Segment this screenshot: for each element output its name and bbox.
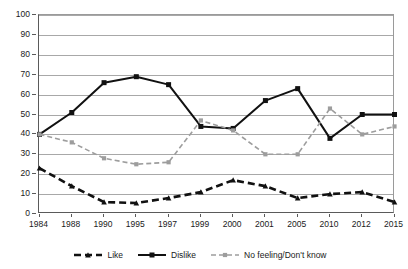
data-point [102, 156, 106, 160]
data-point [360, 132, 364, 136]
x-axis-tick-mark [297, 214, 298, 217]
y-axis-tick-mark [32, 173, 36, 174]
legend-swatch-square-icon [210, 250, 240, 260]
legend-swatch-square-icon [137, 250, 167, 260]
x-axis-tick-mark [103, 214, 104, 217]
series-line [40, 168, 395, 203]
data-point [328, 106, 332, 110]
y-axis-tick-mark [32, 14, 36, 15]
x-axis-tick-mark [71, 214, 72, 217]
data-point [231, 128, 235, 132]
y-axis-tick-mark [32, 133, 36, 134]
x-axis-tick-mark [394, 214, 395, 217]
x-axis-tick-mark [135, 214, 136, 217]
y-axis-tick-mark [32, 74, 36, 75]
chart-legend: LikeDislikeNo feeling/Don't know [0, 245, 400, 265]
series-line [40, 77, 395, 139]
x-axis-tick-mark [264, 214, 265, 217]
data-point [166, 160, 170, 164]
y-axis-tick-mark [32, 54, 36, 55]
y-axis-tick-label: 10 [0, 189, 30, 198]
y-axis-tick-mark [32, 114, 36, 115]
y-axis-tick-label: 90 [0, 30, 30, 39]
data-point [70, 140, 74, 144]
x-axis-tick-mark [361, 214, 362, 217]
data-point [37, 132, 41, 136]
data-point [327, 136, 332, 141]
data-point [69, 110, 74, 115]
y-axis-tick-label: 20 [0, 169, 30, 178]
x-axis-tick-mark [329, 214, 330, 217]
data-point [166, 82, 171, 87]
y-axis: 0102030405060708090100 [0, 14, 36, 213]
series-like [37, 165, 398, 205]
y-axis-tick-label: 60 [0, 89, 30, 98]
y-axis-tick-label: 80 [0, 50, 30, 59]
x-axis-tick-label: 2015 [372, 220, 408, 229]
y-axis-tick-mark [32, 34, 36, 35]
data-point [360, 112, 365, 117]
y-axis-tick-label: 40 [0, 129, 30, 138]
y-axis-tick-mark [32, 153, 36, 154]
data-point [134, 162, 138, 166]
legend-item-label: No feeling/Don't know [244, 251, 326, 260]
data-point [199, 118, 203, 122]
y-axis-tick-label: 70 [0, 69, 30, 78]
y-axis-tick-label: 0 [0, 209, 30, 218]
y-axis-tick-label: 100 [0, 10, 30, 19]
series-no-feeling-don-t-know [37, 106, 396, 166]
y-axis-tick-mark [32, 213, 36, 214]
x-axis-tick-mark [168, 214, 169, 217]
x-axis-tick-mark [39, 214, 40, 217]
data-point [102, 80, 107, 85]
x-axis: 1984198819901995199719992000200120052010… [38, 214, 394, 234]
legend-item-label: Like [107, 251, 123, 260]
data-point [198, 124, 203, 129]
series-dislike [37, 74, 397, 141]
data-point [263, 98, 268, 103]
y-axis-tick-label: 30 [0, 149, 30, 158]
legend-item-label: Dislike [171, 251, 196, 260]
data-point [263, 152, 267, 156]
y-axis-tick-label: 50 [0, 109, 30, 118]
data-point [392, 112, 397, 117]
legend-item-dislike[interactable]: Dislike [137, 250, 196, 260]
legend-item-no-feeling-don-t-know[interactable]: No feeling/Don't know [210, 250, 326, 260]
plot-area [38, 14, 394, 213]
data-point [296, 152, 300, 156]
legend-item-like[interactable]: Like [73, 250, 123, 260]
series-layer [39, 15, 395, 214]
data-point [134, 74, 139, 79]
data-point [295, 86, 300, 91]
x-axis-tick-mark [200, 214, 201, 217]
y-axis-tick-mark [32, 193, 36, 194]
data-point [392, 124, 396, 128]
x-axis-tick-mark [232, 214, 233, 217]
y-axis-tick-mark [32, 94, 36, 95]
series-line [40, 109, 395, 165]
legend-swatch-triangle-icon [73, 250, 103, 260]
